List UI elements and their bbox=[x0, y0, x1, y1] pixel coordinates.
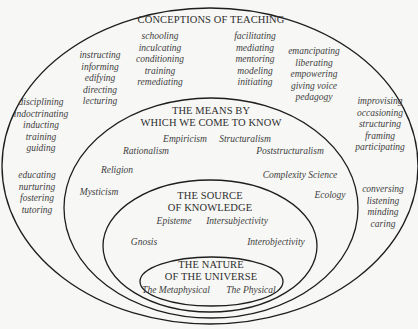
teaching-group-conversing: conversing listening minding caring bbox=[362, 184, 404, 230]
heading-means-of-knowing: THE MEANS BY WHICH WE COME TO KNOW bbox=[141, 105, 282, 129]
teaching-term: tutoring bbox=[18, 205, 55, 217]
teaching-term: indoctrinating bbox=[14, 109, 68, 121]
heading-source-of-knowledge: THE SOURCE OF KNOWLEDGE bbox=[168, 190, 252, 214]
nature-physical: The Physical bbox=[226, 285, 275, 296]
conceptions-of-teaching-diagram: CONCEPTIONS OF TEACHING disciplining ind… bbox=[0, 0, 418, 329]
teaching-term: mediating bbox=[234, 43, 276, 55]
teaching-term: initiating bbox=[234, 77, 276, 89]
heading-nature-of-universe: THE NATURE OF THE UNIVERSE bbox=[165, 259, 257, 283]
teaching-term: schooling bbox=[136, 31, 184, 43]
means-ecology: Ecology bbox=[314, 190, 345, 201]
teaching-term: conversing bbox=[362, 184, 404, 196]
means-mysticism: Mysticism bbox=[80, 187, 119, 198]
means-poststructuralism: Poststructuralism bbox=[256, 146, 324, 157]
teaching-term: educating bbox=[18, 170, 55, 182]
heading-line-1: THE NATURE bbox=[165, 259, 257, 271]
teaching-term: giving voice bbox=[288, 81, 340, 93]
teaching-term: improvising bbox=[355, 96, 405, 108]
source-interobjectivity: Interobjectivity bbox=[247, 237, 305, 248]
teaching-term: fostering bbox=[18, 193, 55, 205]
teaching-term: mentoring bbox=[234, 54, 276, 66]
teaching-term: instructing bbox=[79, 50, 120, 62]
source-gnosis: Gnosis bbox=[131, 237, 157, 248]
source-intersubjectivity: Intersubjectivity bbox=[206, 216, 268, 227]
teaching-term: training bbox=[136, 66, 184, 78]
teaching-term: training bbox=[14, 132, 68, 144]
teaching-term: minding bbox=[362, 207, 404, 219]
teaching-term: informing bbox=[79, 62, 120, 74]
teaching-term: modeling bbox=[234, 66, 276, 78]
means-structuralism: Structuralism bbox=[219, 134, 271, 145]
heading-conceptions-of-teaching: CONCEPTIONS OF TEACHING bbox=[138, 14, 285, 26]
teaching-group-nurturing: educating nurturing fostering tutoring bbox=[18, 170, 55, 216]
teaching-term: directing bbox=[79, 85, 120, 97]
heading-line-1: THE MEANS BY bbox=[141, 105, 282, 117]
teaching-term: edifying bbox=[79, 73, 120, 85]
teaching-term: remediating bbox=[136, 77, 184, 89]
teaching-term: empowering bbox=[288, 69, 340, 81]
teaching-term: disciplining bbox=[14, 97, 68, 109]
means-empiricism: Empiricism bbox=[163, 134, 207, 145]
nature-metaphysical: The Metaphysical bbox=[142, 285, 210, 296]
teaching-group-instruction: instructing informing edifying directing… bbox=[79, 50, 120, 108]
teaching-term: liberating bbox=[288, 58, 340, 70]
means-religion: Religion bbox=[101, 165, 133, 176]
teaching-term: nurturing bbox=[18, 182, 55, 194]
teaching-term: framing bbox=[355, 131, 405, 143]
heading-line-2: OF KNOWLEDGE bbox=[168, 202, 252, 214]
teaching-term: emancipating bbox=[288, 46, 340, 58]
teaching-term: inducting bbox=[14, 120, 68, 132]
heading-line-2: OF THE UNIVERSE bbox=[165, 271, 257, 283]
teaching-group-emancipation: emancipating liberating empowering givin… bbox=[288, 46, 340, 104]
teaching-group-facilitation: facilitating mediating mentoring modelin… bbox=[234, 31, 276, 89]
heading-line-1: THE SOURCE bbox=[168, 190, 252, 202]
teaching-group-improvisation: improvising occasioning structuring fram… bbox=[355, 96, 405, 154]
teaching-term: lecturing bbox=[79, 96, 120, 108]
teaching-group-transmission: disciplining indoctrinating inducting tr… bbox=[14, 97, 68, 155]
teaching-term: caring bbox=[362, 219, 404, 231]
heading-text: CONCEPTIONS OF TEACHING bbox=[138, 14, 285, 25]
means-complexity-science: Complexity Science bbox=[263, 170, 338, 181]
teaching-term: guiding bbox=[14, 143, 68, 155]
teaching-term: facilitating bbox=[234, 31, 276, 43]
teaching-term: occasioning bbox=[355, 108, 405, 120]
heading-line-2: WHICH WE COME TO KNOW bbox=[141, 117, 282, 129]
teaching-term: listening bbox=[362, 196, 404, 208]
means-rationalism: Rationalism bbox=[123, 146, 169, 157]
teaching-term: inculcating bbox=[136, 43, 184, 55]
teaching-term: participating bbox=[355, 142, 405, 154]
teaching-term: structuring bbox=[355, 119, 405, 131]
teaching-group-schooling: schooling inculcating conditioning train… bbox=[136, 31, 184, 89]
teaching-term: pedagogy bbox=[288, 92, 340, 104]
source-episteme: Episteme bbox=[157, 216, 192, 227]
teaching-term: conditioning bbox=[136, 54, 184, 66]
